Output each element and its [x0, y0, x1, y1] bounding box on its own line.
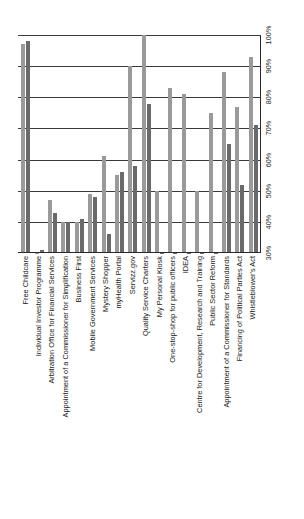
bar [240, 185, 244, 254]
x-tick-text: Quality Service Charters [142, 256, 150, 336]
chart-container: 30%40%50%60%70%80%90%100% Free Childcare… [0, 0, 304, 519]
y-tick-label: 40% [262, 217, 302, 227]
bar-group [180, 35, 193, 253]
bar [254, 125, 258, 253]
y-tick-text: 30% [264, 246, 274, 261]
bar [53, 213, 57, 253]
bar [182, 94, 186, 253]
y-tick-label: 90% [262, 61, 302, 71]
x-tick-text: Mystery Shopper [102, 256, 110, 312]
bar-group [19, 35, 32, 253]
y-tick-label: 60% [262, 155, 302, 165]
bar-group [247, 35, 260, 253]
x-axis-category-labels: Free ChildcareIndividual Investor Progra… [18, 256, 261, 456]
y-tick-text: 40% [264, 215, 274, 230]
x-label-cell: IDEA [180, 256, 193, 456]
bar-group [32, 35, 45, 253]
bar [115, 175, 119, 253]
x-label-cell: Mobile Government Services [86, 256, 99, 456]
x-tick-text: One-stop-shop for public officers [169, 256, 177, 363]
bar [93, 197, 97, 253]
x-tick-text: myHealth Portal [115, 256, 123, 309]
bar [227, 144, 231, 253]
y-tick-text: 60% [264, 152, 274, 167]
y-tick-text: 90% [264, 59, 274, 74]
x-tick-text: Individual Investor Programme [35, 256, 43, 356]
bar [61, 222, 65, 253]
x-tick-text: Whistleblower's Act [249, 256, 257, 319]
x-tick-text: Business First [75, 256, 83, 302]
y-tick-label: 80% [262, 92, 302, 102]
bar [75, 222, 79, 253]
bar [107, 234, 111, 253]
y-tick-text: 50% [264, 183, 274, 198]
x-tick-text: Arbitration Office for Financial Service… [48, 256, 56, 384]
x-label-cell: Whistleblower's Act [247, 256, 260, 456]
bar-group [233, 35, 246, 253]
bar [128, 66, 132, 253]
x-axis-line [18, 252, 261, 253]
bar-group [126, 35, 139, 253]
bar [168, 88, 172, 253]
bar-group [59, 35, 72, 253]
bar [249, 57, 253, 253]
bar [66, 222, 70, 253]
x-tick-text: Appointment of a Commissioner for Standa… [223, 256, 231, 408]
x-label-cell: myHealth Portal [113, 256, 126, 456]
x-label-cell: Centre for Development, Research and Tra… [193, 256, 206, 456]
x-label-cell: One-stop-shop for public officers [166, 256, 179, 456]
x-label-cell: Appointment of a Commissioner for Standa… [220, 256, 233, 456]
bar [209, 113, 213, 253]
y-tick-text: 100% [264, 26, 274, 45]
x-label-cell: My Personal Kiosk [153, 256, 166, 456]
y-axis-tick-labels: 30%40%50%60%70%80%90%100% [262, 35, 302, 253]
x-label-cell: Quality Service Charters [140, 256, 153, 456]
x-label-cell: Mystery Shopper [99, 256, 112, 456]
bar-group [46, 35, 59, 253]
bar-group [86, 35, 99, 253]
bar-group [193, 35, 206, 253]
y-tick-label: 50% [262, 186, 302, 196]
x-label-cell: Public Sector Reform [206, 256, 219, 456]
bar [133, 166, 137, 253]
bar [195, 191, 199, 253]
bar [80, 219, 84, 253]
bar-group [99, 35, 112, 253]
x-tick-text: Mobile Government Services [89, 256, 97, 351]
y-tick-label: 100% [262, 30, 302, 40]
bar [142, 35, 146, 253]
bar-group [166, 35, 179, 253]
x-label-cell: Individual Investor Programme [32, 256, 45, 456]
bar-group [206, 35, 219, 253]
bar-group [113, 35, 126, 253]
y-tick-text: 80% [264, 90, 274, 105]
y-tick-label: 70% [262, 123, 302, 133]
bar [120, 172, 124, 253]
x-tick-text: Financing of Political Parties Act [236, 256, 244, 361]
bar [147, 104, 151, 253]
bar [26, 41, 30, 253]
x-label-cell: Appointment of a Commissioner for Simpli… [59, 256, 72, 456]
x-tick-text: Public Sector Reform [209, 256, 217, 326]
x-tick-text: Free Childcare [22, 256, 30, 304]
bar [21, 44, 25, 253]
y-tick-label: 30% [262, 248, 302, 258]
bar-group [153, 35, 166, 253]
x-label-cell: Free Childcare [19, 256, 32, 456]
x-label-cell: Financing of Political Parties Act [233, 256, 246, 456]
bar-group [140, 35, 153, 253]
x-label-cell: Servizz.gov [126, 256, 139, 456]
y-tick-text: 70% [264, 121, 274, 136]
bar [235, 107, 239, 253]
bar-group [73, 35, 86, 253]
bar-groups [18, 35, 261, 253]
plot-area [18, 35, 261, 253]
y-axis-line [260, 35, 261, 253]
bar [48, 200, 52, 253]
bar [88, 194, 92, 253]
x-label-cell: Arbitration Office for Financial Service… [46, 256, 59, 456]
x-tick-text: Servizz.gov [129, 256, 137, 294]
bar [102, 156, 106, 253]
x-label-cell: Business First [73, 256, 86, 456]
gridline-30 [18, 253, 261, 254]
